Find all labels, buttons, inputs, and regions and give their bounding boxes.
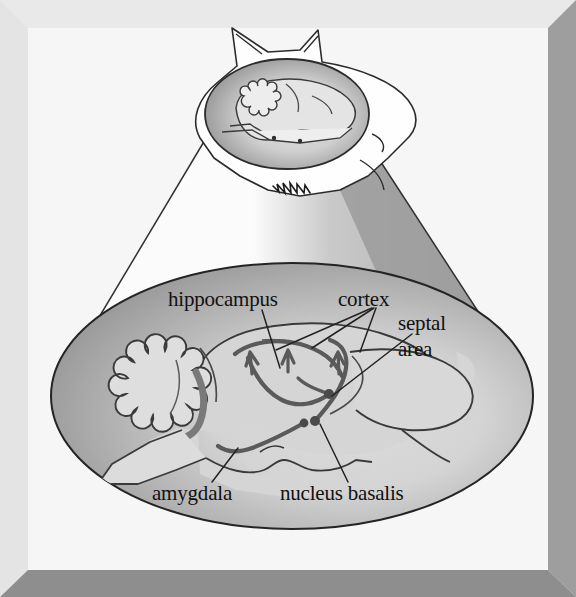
frame-bevel-right — [548, 0, 576, 597]
inset-node-1 — [272, 136, 276, 140]
frame-bevel-left — [0, 0, 28, 597]
frame-bevel-top — [0, 0, 576, 28]
inset-node-2 — [298, 139, 302, 143]
label-nucleus-basalis: nucleus basalis — [280, 481, 404, 505]
figure-root: hippocampus cortex septal area amygdala … — [0, 0, 576, 597]
frame-bevel-bottom — [0, 570, 576, 597]
label-amygdala: amygdala — [152, 481, 233, 505]
brain-diagram-figure: hippocampus cortex septal area amygdala … — [0, 0, 576, 597]
label-septal-area-line2: area — [398, 337, 433, 361]
nucleus-basalis-node-dot — [310, 416, 320, 426]
label-cortex: cortex — [338, 287, 390, 311]
label-hippocampus: hippocampus — [168, 287, 278, 311]
amygdala-node-dot — [300, 419, 309, 428]
septal-node-dot — [324, 389, 334, 399]
label-septal-area-line1: septal — [398, 311, 446, 335]
